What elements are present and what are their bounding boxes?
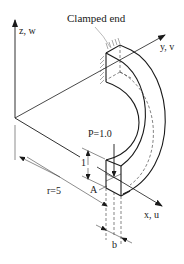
radius-label: r=5 xyxy=(47,186,61,196)
x-axis-label: x, u xyxy=(144,210,159,220)
clamped-end-label: Clamped end xyxy=(67,13,125,24)
clamped-end-leader xyxy=(95,27,110,47)
curved-beam xyxy=(106,45,165,196)
y-axis xyxy=(15,35,165,118)
height-label: 1 xyxy=(81,158,86,168)
width-label: b xyxy=(112,240,117,250)
y-axis-label: y, v xyxy=(160,42,174,52)
clamp-hatch xyxy=(100,38,120,84)
z-axis-label: z, w xyxy=(19,26,36,36)
point-a-label: A xyxy=(90,185,97,195)
load-label: P=1.0 xyxy=(88,129,112,139)
